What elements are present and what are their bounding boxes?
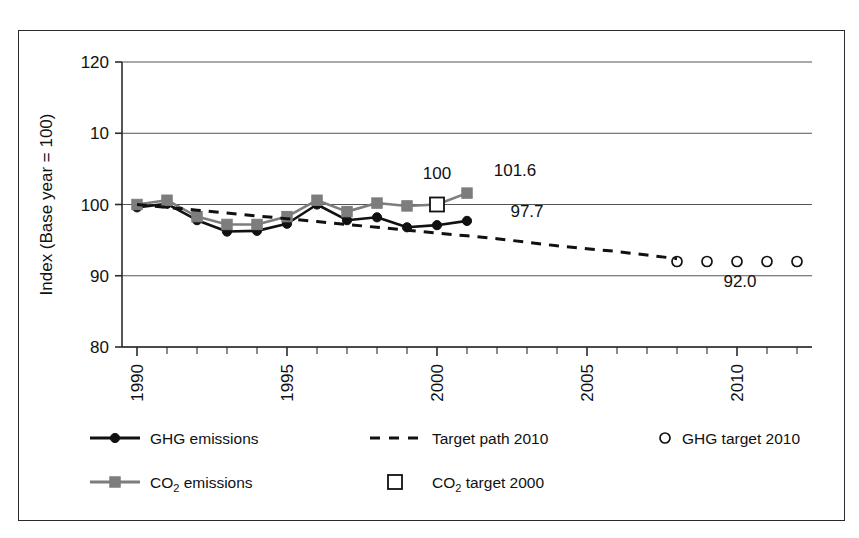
legend-marker-swatch: [110, 477, 120, 487]
data-point: [462, 188, 472, 198]
y-axis-title: Index (Base year = 100): [37, 114, 56, 296]
data-point: [702, 257, 712, 267]
figure-container: 80901001012019901995200020052010Index (B…: [0, 0, 859, 538]
legend-marker-swatch: [110, 433, 119, 442]
legend-item-ghg-target-2010[interactable]: GHG target 2010: [660, 430, 800, 447]
chart-canvas: 80901001012019901995200020052010Index (B…: [0, 0, 859, 538]
data-point: [792, 257, 802, 267]
x-tick-label-2005: 2005: [578, 364, 597, 402]
series-target-path-2010: [137, 205, 677, 259]
data-point: [402, 201, 412, 211]
x-tick-label-1995: 1995: [278, 364, 297, 402]
legend: GHG emissionsTarget path 2010GHG target …: [90, 430, 800, 494]
data-point: [372, 213, 381, 222]
data-point: [312, 195, 322, 205]
legend-item-co2-emissions[interactable]: CO2 emissions: [90, 474, 253, 494]
data-point: [222, 219, 232, 229]
annotation-100: 100: [423, 164, 451, 183]
x-axis-ticks: 19901995200020052010: [128, 347, 797, 402]
legend-marker-swatch: [388, 475, 402, 489]
data-point: [192, 211, 202, 221]
data-point: [342, 206, 352, 216]
legend-label: GHG target 2010: [682, 430, 800, 447]
legend-label: GHG emissions: [150, 430, 259, 447]
x-tick-label-1990: 1990: [128, 364, 147, 402]
annotation-97-7: 97.7: [510, 202, 543, 221]
series-ghg-target-2010: [672, 257, 802, 267]
data-point: [462, 216, 471, 225]
data-point: [252, 219, 262, 229]
y-tick-label-110: 10: [90, 124, 109, 143]
y-axis-ticks: 809010010120: [81, 53, 122, 357]
data-point: [430, 198, 444, 212]
series-line: [137, 205, 677, 259]
annotation-92-0: 92.0: [723, 272, 756, 291]
legend-label: Target path 2010: [432, 430, 549, 447]
legend-label: CO2 emissions: [150, 474, 253, 494]
data-point: [732, 257, 742, 267]
data-point: [432, 221, 441, 230]
x-tick-label-2010: 2010: [728, 364, 747, 402]
series-co2-target-2000: [430, 198, 444, 212]
legend-item-co2-target-2000[interactable]: CO2 target 2000: [388, 474, 544, 494]
annotations: 100101.697.792.0: [423, 161, 757, 291]
legend-marker-swatch: [660, 433, 670, 443]
gridlines: [122, 62, 812, 347]
y-tick-label-80: 80: [90, 338, 109, 357]
data-point: [162, 195, 172, 205]
x-tick-label-2000: 2000: [428, 364, 447, 402]
legend-label: CO2 target 2000: [432, 474, 544, 494]
annotation-101-6: 101.6: [494, 161, 537, 180]
y-tick-label-120: 120: [81, 53, 109, 72]
y-tick-label-100: 100: [81, 196, 109, 215]
data-point: [372, 198, 382, 208]
legend-item-target-path-2010[interactable]: Target path 2010: [370, 430, 549, 447]
data-point: [762, 257, 772, 267]
y-tick-label-90: 90: [90, 267, 109, 286]
series-co2-emissions: [132, 188, 472, 230]
legend-item-ghg-emissions[interactable]: GHG emissions: [90, 430, 259, 447]
